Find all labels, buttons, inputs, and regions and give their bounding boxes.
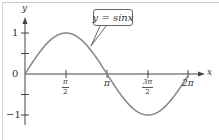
pi-half-numerator: π — [62, 79, 69, 86]
x-tick-label-pi-half: π 2 — [62, 79, 69, 96]
callout-text: y = sinx — [93, 12, 134, 23]
x-tick-label-3pi-half: 3π 2 — [142, 79, 153, 96]
x-tick-label-pi: π — [104, 79, 110, 88]
pi-half-denominator: 2 — [63, 89, 67, 96]
three-pi-half-denominator: 2 — [145, 89, 149, 96]
x-axis-label: x — [207, 68, 212, 77]
y-tick-label-1: 1 — [12, 28, 18, 38]
y-axis-arrow-icon — [23, 17, 28, 24]
y-tick-label-neg1: −1 — [6, 110, 21, 120]
callout-pointer — [91, 26, 106, 46]
function-callout-label: y = sinx — [93, 9, 133, 26]
y-tick-label-0: 0 — [12, 69, 18, 79]
x-axis-arrow-icon — [198, 72, 205, 77]
three-pi-half-numerator: 3π — [142, 79, 153, 86]
y-axis-label: y — [22, 4, 27, 13]
x-tick-label-2pi: 2π — [182, 79, 194, 88]
